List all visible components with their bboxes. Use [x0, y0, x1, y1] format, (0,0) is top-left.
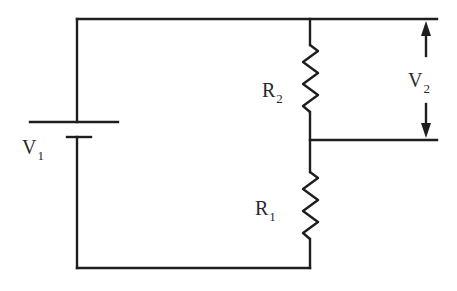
label-v1: V1: [22, 136, 44, 163]
resistor-r2: [303, 45, 318, 112]
label-r1: R1: [255, 197, 276, 224]
v2-down-arrow-icon: [421, 104, 431, 138]
circuit-diagram: V1 R2 R1 V2: [0, 0, 457, 291]
v2-up-arrow-icon: [421, 21, 431, 56]
resistor-r1: [303, 172, 318, 239]
label-v2: V2: [408, 69, 430, 96]
label-r2: R2: [262, 79, 283, 106]
